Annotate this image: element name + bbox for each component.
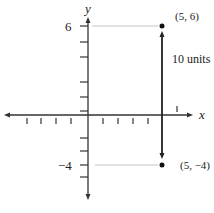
point-label-5-6: (5, 6): [175, 10, 199, 23]
y-axis-down-arrow-icon: [86, 194, 91, 200]
y-tick-label-neg4: −4: [58, 158, 72, 173]
y-tick-label-6: 6: [65, 19, 72, 34]
point-label-5-neg4: (5, −4): [180, 159, 210, 172]
segment-up-arrow-icon: [160, 31, 165, 37]
y-axis-label: y: [83, 1, 91, 16]
segment-down-arrow-icon: [160, 153, 165, 159]
y-axis-up-arrow-icon: [86, 17, 91, 23]
coordinate-plane: y x 6 −4 (5, 6) (5, −4) 10 units: [0, 0, 214, 213]
point-5-6: [160, 24, 165, 29]
x-axis-left-arrow-icon: [4, 113, 10, 118]
y-axis-ticks: [80, 26, 88, 177]
distance-segment: [160, 31, 165, 159]
segment-length-label: 10 units: [172, 52, 211, 66]
y-axis: [80, 17, 91, 200]
x-axis-label: x: [198, 107, 205, 122]
point-5-neg4: [160, 163, 165, 168]
x-axis: [4, 106, 193, 124]
x-axis-right-arrow-icon: [187, 113, 193, 118]
